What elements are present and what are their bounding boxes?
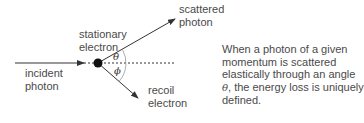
recoil-electron-label: recoil electron <box>148 84 187 110</box>
recoil-electron-label-line2: electron <box>148 97 187 110</box>
phi-symbol: ϕ <box>114 66 121 76</box>
stationary-electron-dot <box>94 59 103 68</box>
stationary-electron-label-line1: stationary <box>79 28 127 41</box>
scattered-photon-label: scattered photon <box>179 3 224 29</box>
caption-part1: When a photon of a given momentum is sca… <box>222 43 355 80</box>
incident-photon-label-line2: photon <box>25 80 63 93</box>
incident-photon-label: incident photon <box>25 67 63 93</box>
scattered-photon-label-line2: photon <box>179 16 224 29</box>
incident-photon-label-line1: incident <box>25 67 63 80</box>
theta-symbol: θ <box>113 52 119 62</box>
stationary-electron-label: stationary electron <box>79 28 127 54</box>
stationary-electron-label-line2: electron <box>79 41 127 54</box>
scattered-photon-label-line1: scattered <box>179 3 224 16</box>
caption-text: When a photon of a given momentum is sca… <box>222 43 364 107</box>
caption-part2: , the energy loss is uniquely defined. <box>222 81 364 107</box>
recoil-electron-label-line1: recoil <box>148 84 187 97</box>
